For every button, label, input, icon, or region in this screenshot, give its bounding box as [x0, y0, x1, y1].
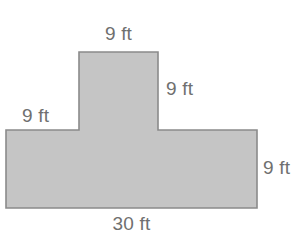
- dimension-label-base-right: 9 ft: [263, 158, 290, 177]
- dimension-label-top: 9 ft: [0, 24, 237, 43]
- geometry-figure: 9 ft 9 ft 9 ft 9 ft 30 ft: [0, 0, 305, 249]
- dimension-label-bottom: 30 ft: [0, 214, 263, 233]
- t-shape-outline: [6, 52, 257, 208]
- dimension-label-stem-right: 9 ft: [166, 79, 193, 98]
- dimension-label-base-left: 9 ft: [22, 106, 49, 125]
